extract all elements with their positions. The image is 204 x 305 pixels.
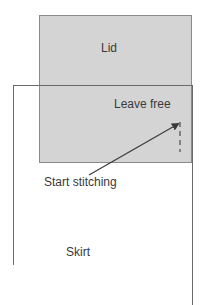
annotation-overlay <box>0 0 204 305</box>
arrow-icon <box>89 124 178 175</box>
